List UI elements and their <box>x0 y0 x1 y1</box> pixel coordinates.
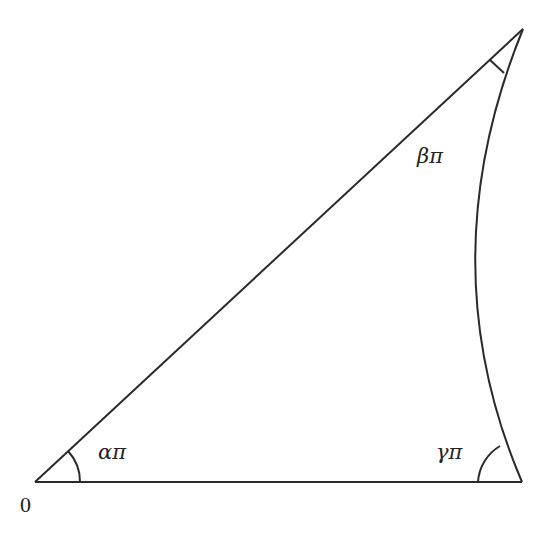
angle-arc-beta <box>490 60 504 73</box>
triangle-diagram <box>0 0 551 536</box>
angle-arc-gamma <box>478 446 500 482</box>
label-gamma: γπ <box>436 442 462 463</box>
label-alpha: απ <box>98 442 126 463</box>
edge-origin-top <box>35 29 523 482</box>
angle-arc-alpha <box>68 451 80 482</box>
label-origin: 0 <box>20 494 31 516</box>
edge-arc-top-bottom-right <box>475 29 523 482</box>
label-beta: βπ <box>417 146 443 167</box>
